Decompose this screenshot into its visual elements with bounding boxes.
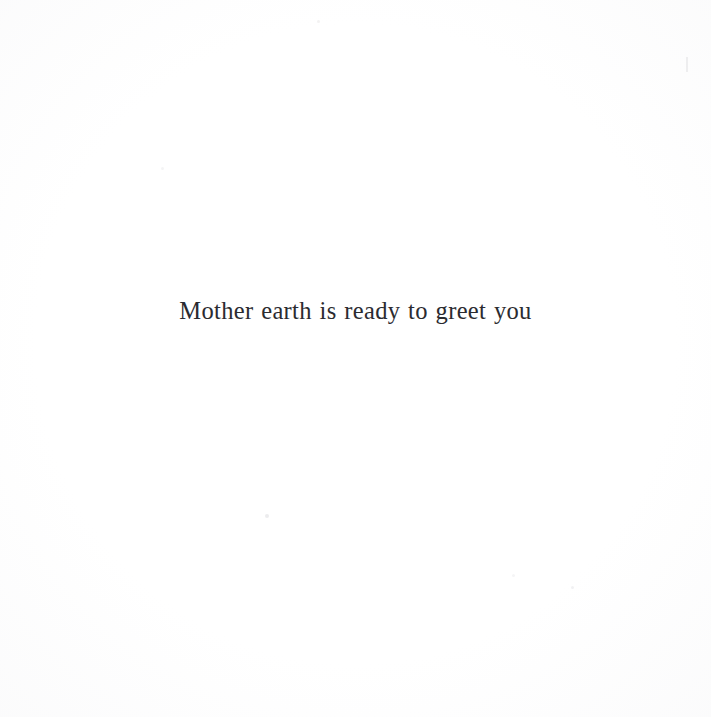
scan-speck-icon [161,167,164,170]
scan-speck-icon [317,20,320,23]
scan-edge-mark-icon [686,57,688,72]
paper-texture [0,0,711,717]
page-text-block: Mother earth is ready to greet you [0,296,711,326]
scan-speck-icon [265,514,269,518]
scan-speck-icon [512,574,515,577]
scan-speck-icon [571,586,574,589]
scanned-page: Mother earth is ready to greet you [0,0,711,717]
page-body-line: Mother earth is ready to greet you [179,296,531,326]
